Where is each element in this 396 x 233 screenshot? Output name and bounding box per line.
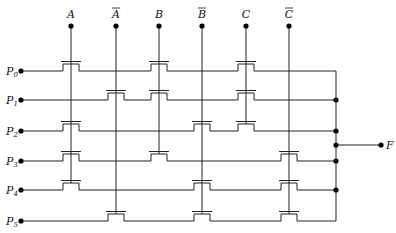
input-label: A xyxy=(111,8,120,21)
input-label: C xyxy=(285,8,294,21)
input-terminal-dot xyxy=(286,23,291,28)
row-label: P0 xyxy=(5,65,18,79)
input-label: A xyxy=(66,8,75,21)
output-terminal-dot xyxy=(378,142,383,147)
input-terminal-dot xyxy=(156,23,161,28)
row-label: P3 xyxy=(5,155,18,169)
input-terminal-dot xyxy=(243,23,248,28)
input-column-a: A xyxy=(66,8,75,183)
input-column-a-bar: A xyxy=(111,8,120,214)
row-label: P4 xyxy=(5,184,18,198)
input-terminal-dot xyxy=(199,23,204,28)
input-label: B xyxy=(197,8,206,21)
input-terminal-dot xyxy=(68,23,73,28)
input-column-b: B xyxy=(154,8,163,154)
row-label: P5 xyxy=(5,215,18,229)
row-label: P1 xyxy=(5,94,18,108)
input-column-c: C xyxy=(242,8,251,124)
logic-array-diagram: AABBCCP0P1P2P3P4P5F xyxy=(0,0,396,233)
product-row-p0: P0 xyxy=(5,62,336,80)
input-terminal-dot xyxy=(113,23,118,28)
row-label: P2 xyxy=(5,125,18,139)
input-label: C xyxy=(242,8,251,21)
output-label: F xyxy=(385,139,394,152)
output-bus: F xyxy=(333,71,394,221)
input-label: B xyxy=(154,8,163,21)
product-row-p5: P5 xyxy=(5,212,336,230)
